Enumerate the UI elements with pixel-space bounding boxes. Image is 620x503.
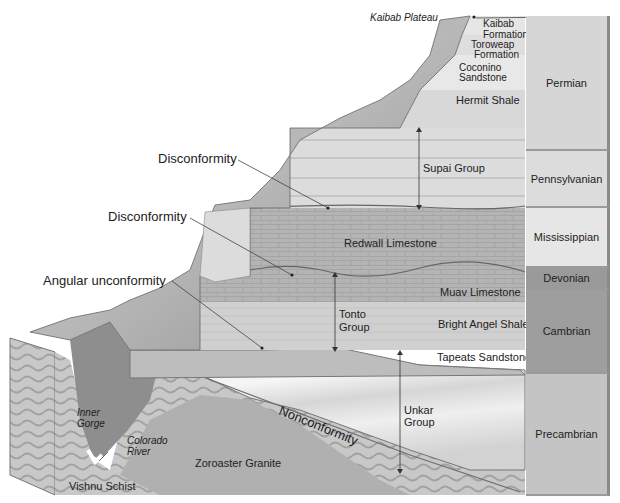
disconformity-upper-label: Disconformity [158,151,237,166]
period-devonian: Devonian [526,268,610,290]
period-mississippian: Mississippian [526,208,610,268]
unkar-label-1: Unkar [404,404,434,416]
toroweap-label-2: Formation [474,49,519,60]
period-precambrian: Precambrian [526,374,610,496]
inner-gorge-label-1: Inner [77,407,100,418]
kaibab-label-1: Kaibab [483,18,515,29]
muav-limestone-label: Muav Limestone [440,286,521,298]
redwall-cliff-face [200,208,250,282]
supai-group-label: Supai Group [423,162,485,174]
stratigraphy-diagram: Kaibab Plateau Kaibab Formation Toroweap… [0,0,620,503]
tonto-label-1: Tonto [339,308,366,320]
period-cambrian: Cambrian [526,290,610,374]
zoroaster-label: Zoroaster Granite [195,457,281,469]
tonto-label-2: Group [339,321,370,333]
inner-gorge-label-2: Gorge [77,418,105,429]
colorado-label-1: Colorado [127,435,168,446]
unkar-label-2: Group [404,416,435,428]
period-permian: Permian [526,16,610,151]
vishnu-schist-label: Vishnu Schist [69,480,135,492]
disconformity-lower-label: Disconformity [108,209,187,224]
period-pennsylvanian: Pennsylvanian [526,151,610,208]
redwall-limestone-label: Redwall Limestone [344,237,437,249]
angular-unconformity-label: Angular unconformity [43,273,166,288]
tapeats-label: Tapeats Sandstone [437,351,531,363]
hermit-shale-label: Hermit Shale [456,94,520,106]
bright-angel-label: Bright Angel Shale [438,318,529,330]
colorado-label-2: River [127,446,151,457]
coconino-label-2: Sandstone [459,72,507,83]
kaibab-plateau-label: Kaibab Plateau [370,12,438,23]
